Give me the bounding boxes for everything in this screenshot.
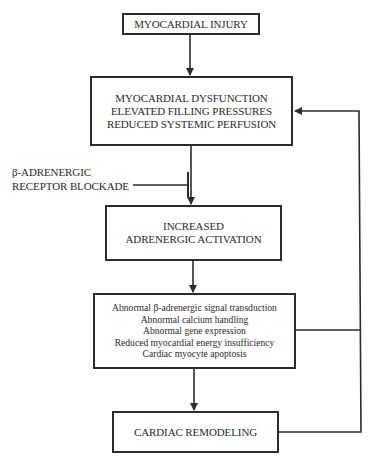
node-mechanisms: Abnormal β-adrenergic signal transductio…	[93, 293, 296, 369]
node-cardiac-remodeling: CARDIAC REMODELING	[112, 411, 279, 453]
node-label: INCREASED	[163, 220, 224, 233]
node-label: Reduced myocardial energy insufficiency	[115, 337, 275, 349]
node-label: REDUCED SYSTEMIC PERFUSION	[107, 118, 276, 131]
node-label: CARDIAC REMODELING	[134, 426, 257, 439]
inhibitor-label-line: RECEPTOR BLOCKADE	[12, 179, 129, 193]
inhibitor-label-line: β-ADRENERGIC	[12, 165, 129, 179]
node-myocardial-injury: MYOCARDIAL INJURY	[122, 13, 260, 35]
node-label: Abnormal calcium handling	[141, 314, 249, 326]
node-label: Abnormal β-adrenergic signal transductio…	[112, 302, 277, 314]
node-label: Abnormal gene expression	[143, 325, 246, 337]
node-label: ADRENERGIC ACTIVATION	[125, 233, 261, 246]
feedback-remodeling-to-dysfunction	[278, 111, 361, 432]
node-label: MYOCARDIAL INJURY	[134, 18, 248, 31]
node-adrenergic-activation: INCREASED ADRENERGIC ACTIVATION	[105, 205, 282, 261]
node-myocardial-dysfunction: MYOCARDIAL DYSFUNCTION ELEVATED FILLING …	[90, 76, 293, 146]
inhibitor-label: β-ADRENERGIC RECEPTOR BLOCKADE	[12, 165, 129, 193]
node-label: MYOCARDIAL DYSFUNCTION	[115, 92, 267, 105]
node-label: Cardiac myocyte apoptosis	[143, 348, 247, 360]
node-label: ELEVATED FILLING PRESSURES	[111, 105, 272, 118]
